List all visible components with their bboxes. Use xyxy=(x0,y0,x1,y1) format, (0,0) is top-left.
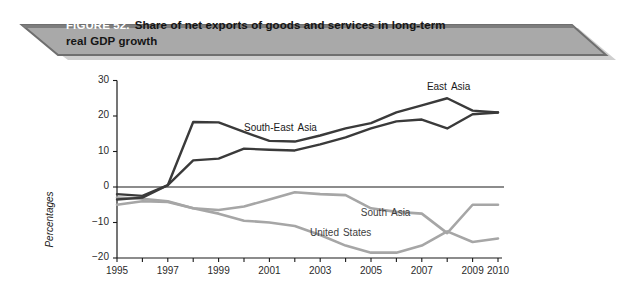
y-tick-label: 0 xyxy=(83,180,109,191)
x-tick-label: 2001 xyxy=(249,265,289,276)
series-label-united-states: United States xyxy=(310,227,371,238)
y-tick-label: 10 xyxy=(83,145,109,156)
x-tick-label: 2003 xyxy=(300,265,340,276)
figure-number: FIGURE 52. xyxy=(66,19,130,31)
x-tick-label: 1999 xyxy=(199,265,239,276)
x-tick-label: 1997 xyxy=(148,265,188,276)
y-tick-label: 30 xyxy=(83,74,109,85)
banner-title-line2: real GDP growth xyxy=(66,35,157,47)
banner-title: FIGURE 52.Share of net exports of goods … xyxy=(66,18,536,49)
series-line-south-asia xyxy=(117,192,498,233)
y-tick-label: 20 xyxy=(83,109,109,120)
figure-banner: FIGURE 52.Share of net exports of goods … xyxy=(0,12,619,64)
banner-title-line1: Share of net exports of goods and servic… xyxy=(135,19,446,31)
chart-area: Percentages 3020100−10−20199519971999200… xyxy=(0,64,619,299)
x-tick-label: 2005 xyxy=(351,265,391,276)
y-tick-label: −10 xyxy=(83,216,109,227)
series-label-east-asia: East Asia xyxy=(427,81,470,92)
x-tick-label: 2010 xyxy=(478,265,518,276)
figure-root: FIGURE 52.Share of net exports of goods … xyxy=(0,0,619,299)
series-label-south-asia: South Asia xyxy=(361,207,411,218)
x-tick-label: 2007 xyxy=(402,265,442,276)
series-label-south-east-asia: South-East Asia xyxy=(244,122,317,133)
y-tick-label: −20 xyxy=(83,251,109,262)
x-tick-label: 1995 xyxy=(97,265,137,276)
